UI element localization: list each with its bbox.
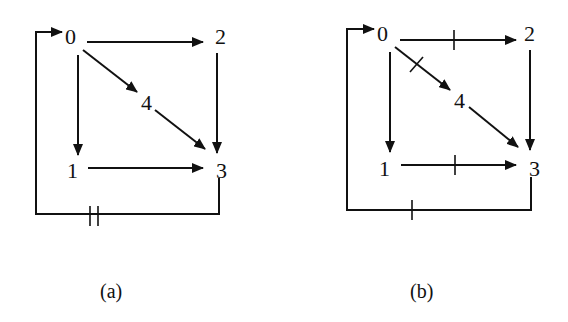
- node-1: 1: [67, 158, 78, 183]
- node-4: 4: [454, 88, 465, 113]
- edge-3-0-feedback: [36, 32, 219, 214]
- node-4: 4: [141, 90, 152, 115]
- caption-a: (a): [100, 280, 122, 303]
- node-0: 0: [377, 21, 388, 46]
- edge-0-4: [83, 50, 137, 92]
- node-1: 1: [379, 156, 390, 181]
- node-2: 2: [215, 24, 226, 49]
- edge-4-3: [469, 107, 518, 147]
- edge-4-3: [155, 110, 205, 149]
- edge-0-4: [395, 47, 450, 90]
- node-0: 0: [65, 24, 76, 49]
- edge-3-0-feedback: [347, 29, 531, 210]
- figure-b: 0 2 4 1 3 (b): [347, 21, 540, 303]
- node-3: 3: [216, 158, 227, 183]
- caption-b: (b): [410, 280, 433, 303]
- diagram-canvas: 0 2 4 1 3 (a) 0 2 4 1 3 (b): [0, 0, 568, 322]
- figure-a: 0 2 4 1 3 (a): [36, 24, 227, 303]
- node-2: 2: [524, 21, 535, 46]
